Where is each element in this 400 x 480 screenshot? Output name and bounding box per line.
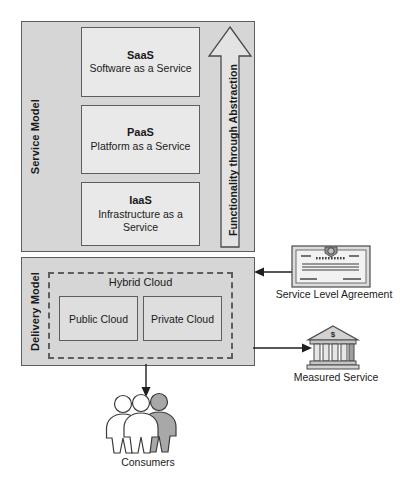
iaas-abbr: IaaS bbox=[129, 194, 152, 208]
saas-name: Software as a Service bbox=[89, 62, 191, 75]
consumers-caption: Consumers bbox=[96, 456, 200, 468]
measured-service-connector-arrow bbox=[253, 338, 313, 358]
abstraction-arrow-label-text: Functionality through Abstraction bbox=[227, 64, 239, 236]
hybrid-cloud-title: Hybrid Cloud bbox=[48, 276, 233, 288]
certificate-icon bbox=[291, 244, 371, 288]
iaas-name: Infrastructure as a Service bbox=[82, 208, 199, 234]
bank-icon: $ bbox=[306, 324, 360, 370]
saas-abbr: SaaS bbox=[127, 49, 154, 63]
paas-name: Platform as a Service bbox=[91, 140, 191, 153]
cloud-model-diagram: Service Model SaaS Software as a Service… bbox=[0, 0, 400, 480]
saas-layer-box: SaaS Software as a Service bbox=[81, 27, 200, 97]
iaas-layer-box: IaaS Infrastructure as a Service bbox=[81, 182, 200, 246]
abstraction-arrow-label: Functionality through Abstraction bbox=[219, 55, 247, 245]
public-cloud-label: Public Cloud bbox=[69, 313, 128, 325]
paas-layer-box: PaaS Platform as a Service bbox=[81, 105, 200, 174]
delivery-model-label-text: Delivery Model bbox=[29, 272, 41, 351]
people-group-icon bbox=[106, 392, 190, 454]
svg-text:$: $ bbox=[331, 330, 336, 339]
delivery-model-label: Delivery Model bbox=[26, 257, 44, 366]
paas-abbr: PaaS bbox=[127, 126, 154, 140]
measured-service-caption: Measured Service bbox=[286, 371, 386, 383]
service-model-label-text: Service Model bbox=[29, 99, 41, 174]
private-cloud-box: Private Cloud bbox=[143, 296, 222, 341]
sla-caption: Service Level Agreement bbox=[272, 288, 396, 300]
public-cloud-box: Public Cloud bbox=[59, 296, 138, 341]
private-cloud-label: Private Cloud bbox=[151, 313, 214, 325]
service-model-label: Service Model bbox=[26, 21, 44, 252]
